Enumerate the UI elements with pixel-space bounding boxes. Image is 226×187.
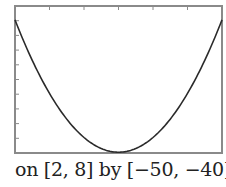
window-caption: on [2, 8] by [−50, −40]	[15, 158, 225, 180]
parabola-curve	[15, 20, 222, 152]
plot-frame	[15, 6, 222, 153]
graph-window	[0, 0, 226, 160]
